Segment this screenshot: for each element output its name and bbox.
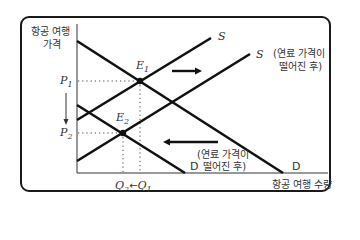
quantity-labels: Q2←Q1 <box>115 179 152 196</box>
equilibrium-e1-label: E1 <box>136 59 149 76</box>
equilibrium-e2-label: E2 <box>116 111 129 128</box>
equilibrium-e1-dot <box>137 78 143 84</box>
supply-curve-original <box>77 38 211 120</box>
equilibrium-e2-dot <box>120 130 126 136</box>
supply-after-note-line1: (연료 가격이 <box>273 47 325 60</box>
y-axis-label-line2: 가격 <box>43 38 61 51</box>
demand-curve-original <box>77 41 283 173</box>
supply-after-note-line2: 떨어진 후) <box>279 60 322 73</box>
demand-shift-arrow-icon <box>163 139 218 146</box>
price-p1-label: P1 <box>60 74 73 91</box>
price-p2-label: P2 <box>60 126 73 143</box>
supply-shift-arrow-icon <box>172 68 202 75</box>
demand-curve-after <box>77 105 185 173</box>
supply-after-label: S <box>256 48 264 61</box>
demand-after-note-line2: 떨어진 후) <box>203 160 246 173</box>
supply-original-label: S <box>218 30 226 43</box>
x-axis-label: 항공 여행 수량 <box>272 178 332 191</box>
demand-after-label: D <box>190 160 198 173</box>
y-axis-label-line1: 항공 여행 <box>31 25 70 38</box>
supply-curve-after <box>77 54 250 161</box>
demand-original-label: D <box>292 160 300 173</box>
price-drop-arrow-icon <box>64 93 69 125</box>
